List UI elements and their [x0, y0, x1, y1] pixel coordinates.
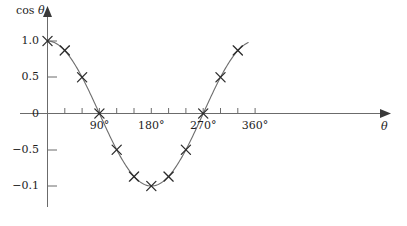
- data-point-marker: [164, 172, 173, 181]
- x-tick-label: 270°: [181, 120, 225, 131]
- x-tick-label: 360°: [233, 120, 277, 131]
- y-axis-title-prefix: cos: [16, 4, 34, 17]
- y-tick-label: 0: [5, 108, 39, 119]
- cosine-chart: cos θ θ 1.00.50−0.5−0.1 90°180°270°360°: [0, 0, 407, 226]
- data-point-marker: [129, 172, 138, 181]
- y-tick-label: −0.5: [5, 144, 39, 155]
- y-tick-label: 0.5: [5, 71, 39, 82]
- data-point-marker: [78, 73, 87, 82]
- axes-group: [20, 6, 391, 207]
- x-axis-arrowhead: [380, 109, 391, 118]
- y-tick-label: −0.1: [5, 180, 39, 191]
- y-tick-label: 1.0: [5, 35, 39, 46]
- y-axis-title: cos θ: [16, 5, 45, 16]
- x-tick-label: 90°: [77, 120, 121, 131]
- y-axis-title-symbol: θ: [38, 4, 45, 17]
- x-axis-ticks: [65, 108, 255, 114]
- data-point-marker: [216, 73, 225, 82]
- data-point-marker: [233, 46, 242, 55]
- data-point-marker: [181, 145, 190, 154]
- x-axis-title: θ: [381, 121, 388, 132]
- data-point-marker: [112, 145, 121, 154]
- plot-area: [0, 0, 407, 226]
- x-tick-label: 180°: [129, 120, 173, 131]
- data-point-marker: [60, 46, 69, 55]
